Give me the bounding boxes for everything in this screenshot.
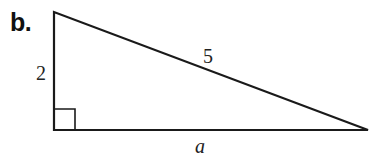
diagram: b. 2 5 a	[0, 0, 379, 165]
right-angle-marker	[54, 109, 75, 130]
hypotenuse-label: 5	[203, 46, 213, 66]
triangle-outline	[54, 12, 368, 130]
horizontal-leg-label: a	[195, 136, 205, 156]
vertical-leg-label: 2	[36, 63, 46, 83]
problem-label: b.	[10, 8, 31, 37]
right-triangle	[0, 0, 379, 165]
